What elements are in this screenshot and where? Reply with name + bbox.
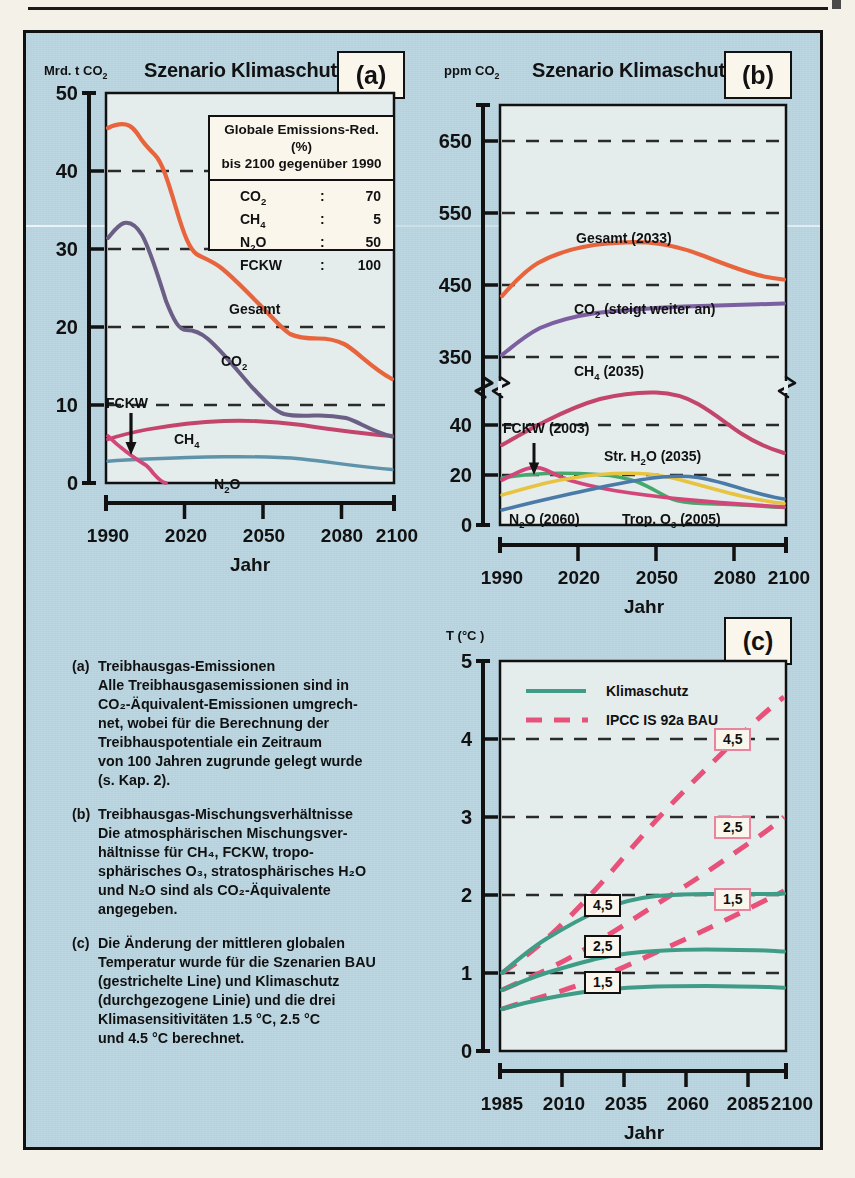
caption-block-a: (a) Treibhausgas-Emissionen Alle Treibha… <box>72 657 444 790</box>
panel-b-label-strh2o: Str. H2O (2035) <box>604 448 701 467</box>
panel-c-xtick-1985: 1985 <box>481 1093 523 1115</box>
panel-c-xaxis-label: Jahr <box>624 1122 664 1144</box>
caption-block-c: (c) Die Änderung der mittleren globalen … <box>72 934 444 1048</box>
caption-line: net, wobei für die Berechnung der <box>98 714 444 733</box>
panel-b-xtick-2020: 2020 <box>558 567 600 589</box>
caption-key-b: (b) <box>72 805 98 919</box>
label-text: CO <box>221 353 242 369</box>
caption-line: Temperatur wurde für die Szenarien BAU <box>98 953 444 972</box>
caption-text-c: Die Änderung der mittleren globalen Temp… <box>98 934 444 1048</box>
panel-a-inset-title: Globale Emissions-Red. (%) bis 2100 gege… <box>210 117 393 181</box>
figure-caption: (a) Treibhausgas-Emissionen Alle Treibha… <box>72 657 444 1063</box>
caption-line: Alle Treibhausgasemissionen sind in <box>98 676 444 695</box>
panel-a-label-n2o: N2O <box>214 476 240 495</box>
panel-c-legend-label-klimaschutz: Klimaschutz <box>606 683 688 699</box>
panel-c-bau-label-45: 4,5 <box>714 728 751 751</box>
label-text: CO <box>574 301 595 317</box>
panel-a-inset-row: FCKW : 100 <box>222 255 381 276</box>
panel-a-xtick-2050: 2050 <box>243 525 285 547</box>
caption-line: von 100 Jahren zugrunde gelegt wurde <box>98 752 444 771</box>
panel-a-inset-colon: : <box>311 186 335 209</box>
panel-b-xtick-1990: 1990 <box>481 567 523 589</box>
panel-a-label-ch4: CH4 <box>174 431 200 450</box>
panel-a-label-gesamt: Gesamt <box>229 301 280 317</box>
page-corner-mark <box>832 0 841 9</box>
label-rest: O (2035) <box>646 448 701 464</box>
gas-sub: 4 <box>260 218 265 229</box>
label-sub: 2 <box>242 361 247 372</box>
panel-a-inset-value: 50 <box>334 232 381 255</box>
panel-a-xaxis-label: Jahr <box>230 554 270 576</box>
panel-c-xtick-2010: 2010 <box>543 1093 585 1115</box>
panel-b-label-fckw: FCKW (2003) <box>503 420 589 436</box>
panel-c-klimaschutz-label-45: 4,5 <box>584 894 621 917</box>
panel-a-inset-title-line2: bis 2100 gegenüber 1990 <box>220 156 383 173</box>
caption-line: Die Änderung der mittleren globalen <box>98 934 444 953</box>
caption-line: Klimasensitivitäten 1.5 °C, 2.5 °C <box>98 1010 444 1029</box>
caption-line: Treibhausgas-Emissionen <box>98 657 444 676</box>
panel-a-inset-colon: : <box>311 255 335 276</box>
page-top-rule <box>28 7 828 10</box>
label-suffix: O <box>229 476 240 492</box>
panel-b-label-tropo3: Trop. O3 (2005) <box>622 511 721 530</box>
gas-name: CO <box>240 188 261 204</box>
panel-a-inset-colon: : <box>311 232 335 255</box>
caption-line: (gestrichelte Line) und Klimaschutz <box>98 972 444 991</box>
label-text: CH <box>574 363 594 379</box>
panel-c-xtick-2100: 2100 <box>771 1093 813 1115</box>
panel-a-inset-colon: : <box>311 209 335 232</box>
caption-text-a: Treibhausgas-Emissionen Alle Treibhausga… <box>98 657 444 790</box>
panel-a-label-co2: CO2 <box>221 353 247 372</box>
label-text: N <box>214 476 224 492</box>
panel-b-xtick-2080: 2080 <box>714 567 756 589</box>
panel-a-xtick-2080: 2080 <box>321 525 363 547</box>
panel-a: Mrd. t CO2 Szenario Klimaschutz (a) 50 4… <box>26 33 426 613</box>
panel-c-plot <box>424 603 824 1113</box>
caption-line: (durchgezogene Linie) und die drei <box>98 991 444 1010</box>
caption-key-c: (c) <box>72 934 98 1048</box>
panel-a-xtick-2100: 2100 <box>376 525 418 547</box>
caption-line: Treibhausgas-Mischungsverhältnisse <box>98 805 444 824</box>
label-rest: O (2060) <box>524 511 579 527</box>
caption-line: CO₂-Äquivalent-Emissionen umgrech- <box>98 695 444 714</box>
caption-block-b: (b) Treibhausgas-Mischungsverhältnisse D… <box>72 805 444 919</box>
panel-c: T (°C ) (c) 5 4 3 2 1 0 <box>424 603 824 1148</box>
panel-c-bau-label-15: 1,5 <box>714 888 751 911</box>
label-text: Trop. O <box>622 511 671 527</box>
label-text: CH <box>174 431 194 447</box>
caption-line: hältnisse für CH₄, FCKW, tropo- <box>98 843 444 862</box>
panel-a-inset-box: Globale Emissions-Red. (%) bis 2100 gege… <box>208 115 395 251</box>
panel-b-label-co2: CO2 (steigt weiter an) <box>574 301 715 320</box>
panel-a-inset-row: CO2 : 70 <box>222 186 381 209</box>
label-rest: (2035) <box>600 363 644 379</box>
panel-c-xtick-2085: 2085 <box>727 1093 769 1115</box>
panel-a-inset-value: 5 <box>334 209 381 232</box>
panel-c-klimaschutz-label-25: 2,5 <box>584 935 621 958</box>
panel-b-xtick-2100: 2100 <box>768 567 810 589</box>
panel-c-xtick-2060: 2060 <box>667 1093 709 1115</box>
panel-a-xtick-1990: 1990 <box>87 525 129 547</box>
panel-b-xtick-2050: 2050 <box>636 567 678 589</box>
caption-line: Treibhauspotentiale ein Zeitraum <box>98 733 444 752</box>
caption-line: und N₂O sind als CO₂-Äquivalente <box>98 881 444 900</box>
panel-c-xtick-2035: 2035 <box>605 1093 647 1115</box>
panel-a-inset-title-line1: Globale Emissions-Red. (%) <box>220 122 383 156</box>
caption-text-b: Treibhausgas-Mischungsverhältnisse Die a… <box>98 805 444 919</box>
panel-a-inset-value: 70 <box>334 186 381 209</box>
panel-a-inset-rows: CO2 : 70 CH4 : 5 N2O : 50 FCKW : 100 <box>210 181 393 283</box>
panel-a-inset-gas: CH4 <box>222 209 311 232</box>
label-rest: (2005) <box>676 511 720 527</box>
panel-a-inset-gas: N2O <box>222 232 311 255</box>
gas-name: N <box>240 234 250 250</box>
figure-container: Mrd. t CO2 Szenario Klimaschutz (a) 50 4… <box>23 30 823 1150</box>
gas-name: CH <box>240 211 260 227</box>
caption-line: (s. Kap. 2). <box>98 771 444 790</box>
panel-a-inset-gas: CO2 <box>222 186 311 209</box>
panel-b-label-gesamt: Gesamt (2033) <box>576 230 672 246</box>
gas-sub: 2 <box>261 195 266 206</box>
caption-line: und 4.5 °C berechnet. <box>98 1029 444 1048</box>
caption-line: angegeben. <box>98 900 444 919</box>
panel-a-xtick-2020: 2020 <box>165 525 207 547</box>
panel-c-bau-label-25: 2,5 <box>714 816 751 839</box>
caption-key-a: (a) <box>72 657 98 790</box>
